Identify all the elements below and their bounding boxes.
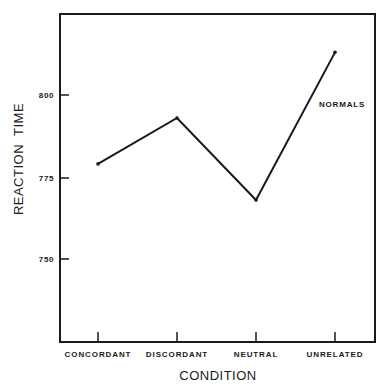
y-tick-label-775: 775: [39, 174, 54, 183]
y-tick-label-750: 750: [39, 255, 54, 264]
x-label-discordant: DISCORDANT: [146, 350, 208, 359]
series-normals: NORMALS: [96, 51, 365, 202]
x-label-concordant: CONCORDANT: [65, 350, 132, 359]
x-axis-title: CONDITION: [179, 368, 256, 383]
reaction-time-chart: 800 775 750 CONCORDANT DISCORDANT NEUTRA…: [0, 0, 387, 387]
y-axis-title: REACTION TIME: [11, 103, 26, 215]
series-label-normals: NORMALS: [319, 100, 365, 109]
x-label-neutral: NEUTRAL: [234, 350, 279, 359]
x-label-unrelated: UNRELATED: [307, 350, 364, 359]
plot-frame: [60, 14, 375, 342]
data-point-concordant: [96, 162, 100, 166]
series-line-normals: [98, 52, 335, 200]
y-tick-label-800: 800: [39, 91, 54, 100]
x-axis: CONCORDANT DISCORDANT NEUTRAL UNRELATED: [65, 332, 364, 359]
data-point-unrelated: [333, 51, 337, 55]
data-point-discordant: [175, 116, 179, 120]
y-axis: 800 775 750: [39, 91, 69, 264]
data-point-neutral: [254, 198, 258, 202]
